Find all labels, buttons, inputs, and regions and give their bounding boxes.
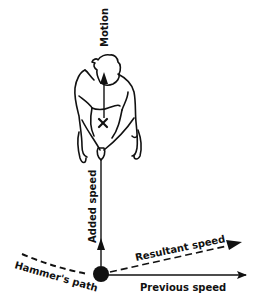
hammer-ball [93, 266, 109, 282]
resultant-speed-label: Resultant speed [134, 233, 226, 263]
motion-arrowhead-icon [100, 72, 108, 84]
thrower-figure [75, 55, 141, 163]
resultant-speed-arrowhead-icon [226, 240, 242, 250]
hammers-path-label: Hammer's path [13, 259, 99, 293]
added-speed-arrowhead-icon [97, 238, 105, 250]
center-of-mass-cross-icon [99, 119, 107, 127]
previous-speed-label: Previous speed [140, 282, 226, 293]
hammer-throw-diagram: Motion Added speed Hammer's path Previou… [0, 0, 259, 308]
added-speed-label: Added speed [87, 170, 98, 243]
motion-label: Motion [99, 8, 110, 47]
